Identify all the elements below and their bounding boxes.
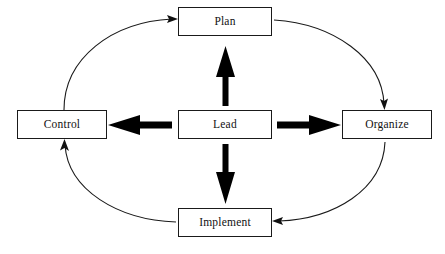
node-organize[interactable]: Organize: [342, 110, 432, 139]
node-implement[interactable]: Implement: [178, 208, 272, 237]
node-organize-label: Organize: [365, 119, 409, 131]
node-implement-label: Implement: [199, 217, 251, 229]
bold-arrow-lead-to-plan: [216, 46, 235, 106]
node-control[interactable]: Control: [17, 110, 107, 139]
curved-arrow-control-to-plan: [64, 19, 172, 110]
cycle-diagram: Plan Control Lead Organize Implement: [0, 0, 445, 254]
node-plan-label: Plan: [214, 16, 235, 28]
bold-arrow-lead-to-organize: [277, 115, 341, 135]
curved-arrow-plan-to-organize: [274, 20, 384, 104]
node-plan[interactable]: Plan: [178, 7, 272, 36]
arrowhead-into-control: [60, 139, 69, 151]
bold-arrow-lead-to-control: [108, 115, 172, 135]
node-control-label: Control: [44, 119, 81, 131]
node-lead[interactable]: Lead: [178, 110, 272, 139]
curved-arrow-implement-to-control: [65, 145, 176, 222]
curved-arrow-organize-to-implement: [279, 142, 385, 221]
bold-arrow-lead-to-implement: [216, 144, 235, 204]
node-lead-label: Lead: [213, 119, 237, 131]
